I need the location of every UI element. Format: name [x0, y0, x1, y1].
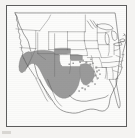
- map-frame: [6, 5, 127, 127]
- caption-mark: [2, 131, 11, 134]
- us-map-svg: [7, 6, 126, 126]
- distribution-map-figure: [0, 0, 135, 138]
- lake-ontario: [120, 39, 125, 42]
- range-polygon-colorado: [54, 48, 70, 54]
- coast-northeast: [121, 34, 126, 65]
